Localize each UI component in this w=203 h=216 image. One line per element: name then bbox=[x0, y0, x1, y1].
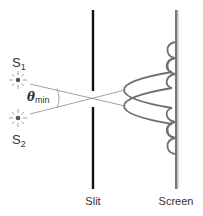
source-s1-label: S1 bbox=[12, 55, 26, 72]
theta-min-label: θmin bbox=[27, 90, 50, 105]
source-s2: S2 bbox=[9, 109, 27, 149]
intensity-patterns bbox=[124, 42, 175, 154]
angle-arc bbox=[57, 89, 59, 109]
source-s2-label: S2 bbox=[12, 132, 26, 149]
slit-label: Slit bbox=[85, 195, 100, 207]
screen-label: Screen bbox=[159, 195, 194, 207]
screen bbox=[175, 10, 179, 189]
source-s1: S1 bbox=[9, 55, 27, 89]
rayleigh-diagram: S1 S2 θmin Slit bbox=[0, 0, 203, 216]
